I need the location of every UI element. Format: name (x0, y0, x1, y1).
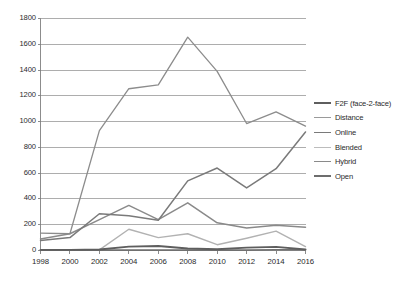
legend-swatch-line-icon (314, 147, 331, 148)
legend-item[interactable]: Online (314, 125, 407, 140)
x-axis-tick-labels: 1998200020022004200620082010201220142016 (0, 0, 310, 283)
legend-item-label: Online (335, 128, 356, 137)
legend-item[interactable]: Blended (314, 140, 407, 155)
x-axis-tick-label: 2002 (83, 257, 115, 266)
legend-item-label: Distance (335, 113, 363, 122)
x-axis-tick-label: 2014 (260, 257, 292, 266)
legend-swatch-line-icon (314, 132, 331, 133)
legend-item[interactable]: Open (314, 169, 407, 184)
legend-item[interactable]: Hybrid (314, 154, 407, 169)
x-axis-tick-label: 2010 (201, 257, 233, 266)
legend-swatch-line-icon (314, 117, 331, 118)
x-axis-tick-label: 1998 (25, 257, 57, 266)
line-chart: 020040060080010001200140016001800 199820… (0, 0, 407, 283)
legend-item[interactable]: F2F (face-2-face) (314, 96, 407, 111)
legend-item[interactable]: Distance (314, 111, 407, 126)
legend-item-label: Blended (335, 143, 362, 152)
legend-swatch-line-icon (314, 175, 331, 177)
x-axis-tick-label: 2006 (142, 257, 174, 266)
legend-item-label: Open (335, 172, 353, 181)
x-axis-tick-label: 2012 (231, 257, 263, 266)
legend-item-label: Hybrid (335, 157, 356, 166)
legend-swatch-line-icon (314, 102, 331, 104)
x-axis-tick-label: 2004 (113, 257, 145, 266)
x-axis-tick-label: 2000 (54, 257, 86, 266)
x-axis-tick-label: 2008 (172, 257, 204, 266)
chart-legend: F2F (face-2-face)DistanceOnlineBlendedHy… (314, 96, 407, 184)
legend-swatch-line-icon (314, 161, 331, 162)
legend-item-label: F2F (face-2-face) (335, 99, 391, 108)
x-axis-tick-label: 2016 (290, 257, 322, 266)
